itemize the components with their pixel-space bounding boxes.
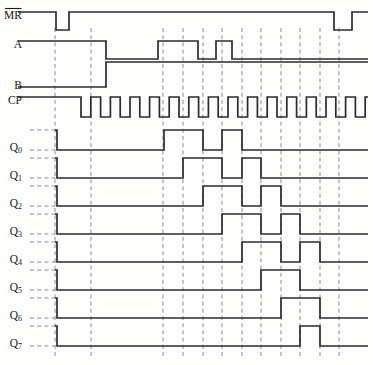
waveform-q3 xyxy=(55,214,368,234)
label-q1: Q1 xyxy=(10,169,22,183)
label-q7: Q7 xyxy=(10,337,22,351)
label-q6: Q6 xyxy=(10,309,22,323)
label-q5: Q5 xyxy=(10,281,22,295)
label-a: A xyxy=(14,38,23,50)
label-b: B xyxy=(14,79,22,91)
label-q3: Q3 xyxy=(10,225,22,239)
waveforms xyxy=(18,12,368,346)
label-q4: Q4 xyxy=(10,253,22,267)
waveform-q6 xyxy=(55,298,368,318)
label-q2: Q2 xyxy=(10,197,22,211)
baseline-dashes xyxy=(30,130,57,346)
waveform-mr xyxy=(18,12,368,30)
waveform-q4 xyxy=(55,242,368,262)
waveform-q0 xyxy=(55,130,368,150)
vertical-gridlines xyxy=(55,28,339,356)
waveform-b xyxy=(18,62,368,87)
label-mr: MR xyxy=(4,9,22,21)
waveform-q2 xyxy=(55,186,368,206)
label-cp: CP xyxy=(8,94,22,106)
signal-labels: MRABCPQ0Q1Q2Q3Q4Q5Q6Q7 xyxy=(4,9,23,351)
waveform-q7 xyxy=(55,326,368,346)
waveform-a xyxy=(18,41,368,59)
waveform-q1 xyxy=(55,158,368,178)
label-q0: Q0 xyxy=(10,141,22,155)
waveform-cp xyxy=(18,97,368,117)
timing-diagram-svg: MRABCPQ0Q1Q2Q3Q4Q5Q6Q7 xyxy=(0,0,373,365)
timing-diagram-root: MRABCPQ0Q1Q2Q3Q4Q5Q6Q7 xyxy=(0,0,373,365)
waveform-q5 xyxy=(55,270,368,290)
